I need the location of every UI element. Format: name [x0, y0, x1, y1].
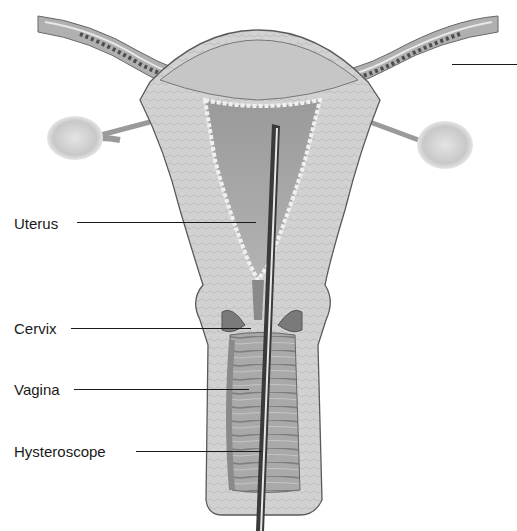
- leader-line-fallopian-tube-cutoff: [452, 64, 517, 65]
- right-ovary: [370, 121, 473, 169]
- label-cervix: Cervix: [14, 321, 57, 336]
- leader-line-uterus: [77, 222, 256, 223]
- label-uterus: Uterus: [14, 216, 58, 231]
- leader-line-cervix: [71, 328, 251, 329]
- label-hysteroscope: Hysteroscope: [14, 444, 106, 459]
- vaginal-wall-left: [229, 340, 232, 490]
- leader-line-vagina: [74, 389, 249, 390]
- label-vagina: Vagina: [14, 382, 60, 397]
- cervical-canal: [252, 280, 264, 320]
- left-ovary: [47, 116, 150, 160]
- leader-line-hysteroscope: [136, 451, 262, 452]
